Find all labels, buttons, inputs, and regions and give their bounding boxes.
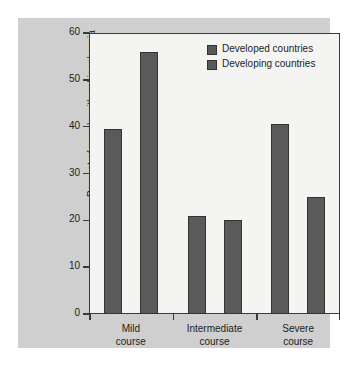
y-axis-tick-label: 0	[74, 307, 80, 318]
x-axis-tick-mark	[256, 314, 258, 320]
legend-label: Developed countries	[222, 43, 313, 56]
bar	[104, 129, 122, 314]
legend-swatch	[207, 45, 217, 55]
y-axis-tick-label: 40	[69, 120, 80, 131]
x-axis-group-label: Severecourse	[256, 322, 340, 348]
y-axis-tick-label: 50	[69, 73, 80, 84]
legend-swatch	[207, 60, 217, 70]
legend-entry: Developed countries	[207, 43, 315, 56]
chart-legend: Developed countriesDeveloping countries	[204, 40, 319, 75]
bar	[188, 216, 206, 314]
x-axis-group-label-line: Intermediate	[173, 322, 257, 335]
x-axis-group-label-line: Severe	[256, 322, 340, 335]
y-axis-tick-label: 20	[69, 213, 80, 224]
bar	[307, 197, 325, 314]
x-axis-tick-mark	[89, 314, 91, 320]
x-axis-group-label-line: Mild	[89, 322, 173, 335]
x-axis-tick-mark	[339, 314, 341, 320]
x-axis-group-label: Intermediatecourse	[173, 322, 257, 348]
x-axis-group-label-line: course	[256, 335, 340, 348]
bar	[224, 220, 242, 314]
y-axis-tick-label: 60	[69, 26, 80, 37]
x-axis-tick-mark	[173, 314, 175, 320]
chart-panel: Percent of people with schizophrenia 010…	[18, 18, 330, 348]
bars-layer	[89, 33, 340, 314]
x-axis-group-label: Mildcourse	[89, 322, 173, 348]
legend-label: Developing countries	[222, 58, 315, 71]
x-axis-group-label-line: course	[173, 335, 257, 348]
y-axis-tick-label: 30	[69, 167, 80, 178]
x-axis: MildcourseIntermediatecourseSeverecourse	[89, 314, 340, 364]
chart-figure: Percent of people with schizophrenia 010…	[0, 0, 347, 366]
x-axis-group-label-line: course	[89, 335, 173, 348]
legend-entry: Developing countries	[207, 58, 315, 71]
bar	[271, 124, 289, 314]
y-axis-tick-label: 10	[69, 260, 80, 271]
bar	[140, 52, 158, 314]
